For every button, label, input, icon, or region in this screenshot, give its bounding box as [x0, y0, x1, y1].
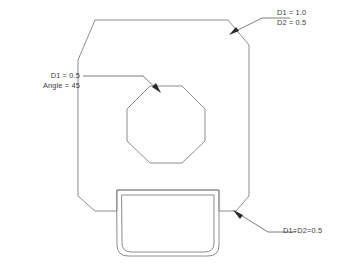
arrowhead-left [152, 83, 161, 93]
top-right-callout-line-2: D2 = 0.5 [277, 18, 306, 28]
top-right-chamfer-callout: D1 = 1.0 D2 = 0.5 [277, 8, 306, 27]
leader-left [83, 76, 158, 90]
octagonal-hole [127, 86, 205, 163]
bottom-right-chamfer-callout: D1=D2=0.5 [283, 226, 322, 236]
tab-inner-outline [122, 195, 214, 252]
plate-outline [78, 20, 249, 211]
left-callout-line-1: D1 = 0.5 [18, 71, 80, 81]
bottom-right-callout-line-1: D1=D2=0.5 [283, 226, 322, 236]
arrowhead-top-right [229, 27, 239, 35]
arrowhead-bottom-right [233, 210, 243, 219]
top-right-callout-line-1: D1 = 1.0 [277, 8, 306, 18]
left-callout-line-2: Angle = 45 [18, 81, 80, 91]
tab-outer-outline [117, 190, 219, 256]
octagon-hole-chamfer-callout: D1 = 0.5 Angle = 45 [18, 71, 80, 90]
